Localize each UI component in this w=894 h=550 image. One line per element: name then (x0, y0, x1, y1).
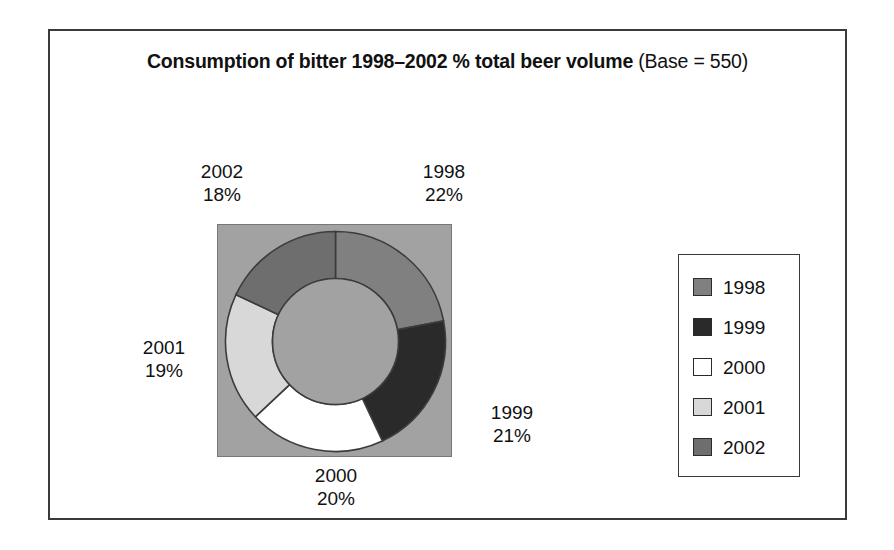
data-label-1999-year: 1999 (466, 401, 558, 424)
chart-title-base: (Base = 550) (633, 50, 748, 72)
data-label-2002: 2002 18% (176, 160, 268, 206)
donut-chart (218, 225, 453, 458)
legend-label-1999: 1999 (723, 318, 765, 337)
legend-swatch-2001 (693, 398, 712, 416)
data-label-2000: 2000 20% (290, 464, 382, 510)
data-label-1998-year: 1998 (398, 160, 490, 183)
legend-item-2002[interactable]: 2002 (693, 427, 799, 467)
data-label-2000-value: 20% (290, 487, 382, 510)
legend-item-1998[interactable]: 1998 (693, 267, 799, 307)
legend-swatch-2000 (693, 358, 712, 376)
donut-center-hole (273, 279, 399, 405)
figure-frame: Consumption of bitter 1998–2002 % total … (48, 29, 847, 520)
data-label-2002-value: 18% (176, 183, 268, 206)
legend-label-2002: 2002 (723, 438, 765, 457)
data-label-2002-year: 2002 (176, 160, 268, 183)
legend-swatch-1998 (693, 278, 712, 296)
chart-legend: 19981999200020012002 (678, 254, 800, 477)
plot-area (217, 224, 452, 457)
data-label-2001-year: 2001 (118, 336, 210, 359)
data-label-2001-value: 19% (118, 359, 210, 382)
legend-swatch-2002 (693, 438, 712, 456)
legend-label-2000: 2000 (723, 358, 765, 377)
data-label-1999-value: 21% (466, 424, 558, 447)
chart-title: Consumption of bitter 1998–2002 % total … (50, 49, 845, 74)
data-label-1998: 1998 22% (398, 160, 490, 206)
legend-label-1998: 1998 (723, 278, 765, 297)
data-label-1998-value: 22% (398, 183, 490, 206)
chart-title-main: Consumption of bitter 1998–2002 % total … (147, 50, 633, 72)
data-label-2001: 2001 19% (118, 336, 210, 382)
legend-item-1999[interactable]: 1999 (693, 307, 799, 347)
legend-label-2001: 2001 (723, 398, 765, 417)
data-label-2000-year: 2000 (290, 464, 382, 487)
data-label-1999: 1999 21% (466, 401, 558, 447)
legend-item-2000[interactable]: 2000 (693, 347, 799, 387)
legend-item-2001[interactable]: 2001 (693, 387, 799, 427)
legend-swatch-1999 (693, 318, 712, 336)
